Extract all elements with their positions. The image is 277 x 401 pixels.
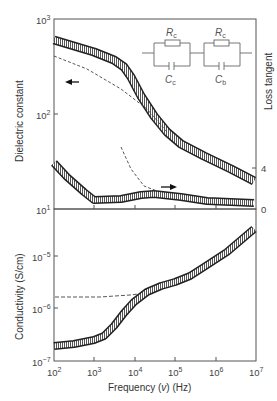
circuit-label-c1: Cc (165, 74, 176, 86)
conductivity-measured-curve (54, 229, 254, 346)
circuit-label-r1: Rc (166, 27, 177, 39)
equivalent-circuit-inset (142, 40, 252, 70)
y-axis-title-bottom: Conductivity (S/cm) (14, 253, 25, 340)
svg-text:10−6: 10−6 (32, 303, 51, 315)
svg-text:106: 106 (209, 366, 224, 378)
svg-text:104: 104 (128, 366, 143, 378)
circuit-label-c2: Cb (215, 74, 226, 86)
svg-text:102: 102 (47, 366, 62, 378)
x-ticks (54, 114, 256, 361)
circuit-label-r2: Rc (215, 27, 226, 39)
x-axis-title: Frequency (v) (Hz) (108, 382, 191, 393)
dielectric-model-dashed (54, 56, 167, 132)
x-tick-labels: 102 103 104 105 106 107 (47, 366, 264, 378)
svg-text:103: 103 (36, 14, 51, 26)
svg-text:103: 103 (87, 366, 102, 378)
arrow-left-icon (65, 79, 79, 85)
svg-text:107: 107 (249, 366, 264, 378)
conductivity-model-dashed (55, 293, 147, 297)
svg-text:102: 102 (36, 109, 51, 121)
arrow-right-icon (161, 184, 177, 190)
y-tick-labels-bottom: 10−5 10−6 10−7 (32, 251, 51, 368)
y-tick-labels-top: 103 102 101 (36, 14, 51, 216)
right-tick-0: 0 (261, 204, 266, 215)
svg-text:105: 105 (168, 366, 183, 378)
y-axis-title-right: Loss tangent (263, 53, 274, 110)
svg-text:10−5: 10−5 (32, 251, 51, 263)
y-axis-title-top: Dielectric constant (14, 80, 25, 162)
impedance-chart: 102 103 104 105 106 107 103 102 101 10−5… (0, 0, 277, 401)
loss-tangent-model-dashed (121, 147, 157, 191)
right-tick-4: 4 (261, 163, 266, 174)
svg-text:101: 101 (36, 204, 51, 216)
